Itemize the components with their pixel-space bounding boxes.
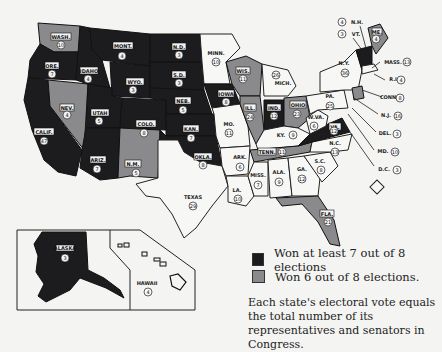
svg-text:3: 3	[177, 80, 180, 86]
svg-text:IOWA: IOWA	[218, 91, 233, 97]
svg-text:24: 24	[247, 114, 253, 120]
svg-text:WYO.: WYO.	[128, 79, 143, 85]
svg-text:10: 10	[392, 149, 398, 155]
svg-text:COLO.: COLO.	[138, 121, 155, 127]
map-legend: Won at least 7 out of 8 elections Won 6 …	[252, 251, 442, 285]
svg-text:TEXAS: TEXAS	[184, 194, 203, 200]
legend-item-dark: Won at least 7 out of 8 elections	[252, 251, 442, 268]
svg-text:7: 7	[95, 166, 98, 172]
svg-text:8: 8	[319, 167, 322, 173]
svg-text:ARIZ.: ARIZ.	[90, 157, 105, 163]
svg-text:LA.: LA.	[232, 187, 241, 193]
svg-text:N.M.: N.M.	[127, 161, 140, 167]
svg-text:UTAH: UTAH	[92, 110, 107, 116]
state-arkansas	[220, 146, 250, 176]
state-arizona	[80, 128, 120, 180]
svg-text:9: 9	[291, 132, 294, 138]
svg-text:S.D.: S.D.	[173, 72, 185, 78]
svg-text:MONT.: MONT.	[114, 43, 132, 49]
svg-text:NEB.: NEB.	[176, 98, 189, 104]
svg-text:ILL.: ILL.	[245, 105, 255, 111]
state-connecticut	[352, 86, 364, 100]
svg-text:3: 3	[177, 52, 180, 58]
svg-text:WASH.: WASH.	[52, 34, 71, 40]
electoral-vote-note: Each state's electoral vote equals the t…	[248, 296, 440, 352]
svg-text:MO.: MO.	[223, 121, 234, 127]
svg-text:CALIF.: CALIF.	[35, 129, 52, 135]
svg-text:W.VA.: W.VA.	[308, 114, 324, 120]
svg-text:8: 8	[201, 162, 204, 168]
svg-text:11: 11	[226, 130, 232, 136]
svg-text:3: 3	[63, 255, 66, 261]
legend-swatch-dark	[252, 253, 264, 266]
legend-item-gray: Won 6 out of 8 elections.	[252, 268, 442, 285]
svg-text:8: 8	[142, 130, 145, 136]
svg-text:MINN.: MINN.	[207, 50, 224, 56]
svg-text:5: 5	[97, 118, 100, 124]
legend-label-gray: Won 6 out of 8 elections.	[275, 270, 419, 284]
svg-text:23: 23	[294, 111, 300, 117]
svg-text:10: 10	[58, 42, 64, 48]
svg-text:MICH.: MICH.	[275, 80, 292, 86]
svg-text:5: 5	[181, 107, 184, 113]
svg-text:IDAHO: IDAHO	[80, 68, 98, 74]
svg-text:3: 3	[131, 87, 134, 93]
svg-text:3: 3	[395, 131, 398, 137]
svg-text:N.J.: N.J.	[381, 112, 391, 118]
svg-text:S.C.: S.C.	[314, 158, 325, 164]
svg-text:4: 4	[340, 19, 343, 25]
svg-text:ALASKA: ALASKA	[54, 245, 76, 251]
svg-text:WIS.: WIS.	[237, 68, 250, 74]
svg-text:13: 13	[404, 59, 410, 65]
svg-text:MASS.: MASS.	[384, 59, 402, 65]
svg-text:KAN.: KAN.	[184, 126, 198, 132]
svg-text:MISS.: MISS.	[250, 172, 266, 178]
svg-text:ARK.: ARK.	[233, 154, 247, 160]
svg-text:FLA.: FLA.	[321, 211, 334, 217]
svg-text:4: 4	[65, 112, 68, 118]
svg-text:CONN.: CONN.	[380, 94, 398, 100]
svg-text:4: 4	[374, 36, 377, 42]
svg-text:12: 12	[299, 176, 305, 182]
svg-text:26: 26	[273, 72, 279, 78]
svg-text:MD.: MD.	[377, 148, 388, 154]
svg-text:12: 12	[271, 113, 277, 119]
svg-text:ME.: ME.	[372, 29, 382, 35]
svg-text:6: 6	[312, 123, 315, 129]
svg-text:47: 47	[41, 138, 47, 144]
svg-text:12: 12	[331, 128, 337, 134]
svg-text:36: 36	[342, 70, 348, 76]
svg-text:3: 3	[340, 31, 343, 37]
svg-text:OHIO: OHIO	[291, 102, 306, 108]
svg-text:HAWAII: HAWAII	[137, 280, 158, 286]
svg-text:ALA.: ALA.	[273, 169, 286, 175]
svg-text:4: 4	[146, 289, 149, 295]
svg-text:KY.: KY.	[277, 132, 286, 138]
svg-text:3: 3	[395, 167, 398, 173]
svg-text:IND.: IND.	[268, 105, 280, 111]
svg-text:N.H.: N.H.	[351, 19, 363, 25]
svg-text:OKLA.: OKLA.	[194, 154, 211, 160]
svg-text:4: 4	[399, 77, 402, 83]
svg-text:8: 8	[224, 99, 227, 105]
legend-swatch-gray	[252, 270, 265, 283]
svg-text:7: 7	[256, 182, 259, 188]
svg-text:ORE.: ORE.	[45, 63, 59, 69]
svg-text:N.D.: N.D.	[173, 44, 185, 50]
svg-text:16: 16	[395, 113, 401, 119]
svg-text:4: 4	[120, 53, 123, 59]
svg-text:PA.: PA.	[325, 93, 334, 99]
svg-text:6: 6	[238, 164, 241, 170]
svg-text:7: 7	[50, 71, 53, 77]
svg-text:25: 25	[327, 103, 333, 109]
svg-text:8: 8	[398, 95, 401, 101]
svg-text:11: 11	[240, 76, 246, 82]
svg-text:DEL.: DEL.	[379, 130, 392, 136]
svg-text:D.C.: D.C.	[378, 166, 390, 172]
svg-text:TENN.: TENN.	[258, 149, 275, 155]
svg-text:10: 10	[213, 59, 219, 65]
svg-text:N.Y.: N.Y.	[339, 60, 350, 66]
svg-text:7: 7	[189, 135, 192, 141]
svg-text:11: 11	[279, 149, 285, 155]
